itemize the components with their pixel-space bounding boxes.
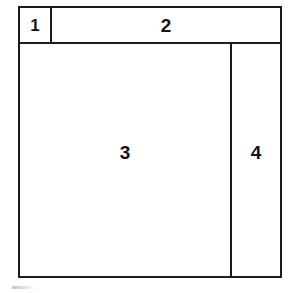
scan-smudge [12,286,36,289]
region-box-2[interactable]: 2 [52,8,280,42]
region-label-3: 3 [120,143,131,162]
diagram-canvas: 1 2 3 4 [0,0,295,293]
region-label-4: 4 [251,143,262,162]
region-box-1[interactable]: 1 [20,8,52,42]
bottom-row: 3 4 [20,44,280,276]
region-label-1: 1 [30,17,39,34]
region-label-2: 2 [161,16,172,35]
region-box-3[interactable]: 3 [20,44,232,276]
top-row: 1 2 [20,8,280,44]
layout-wireframe: 1 2 3 4 [18,6,282,278]
region-box-4[interactable]: 4 [232,44,280,276]
